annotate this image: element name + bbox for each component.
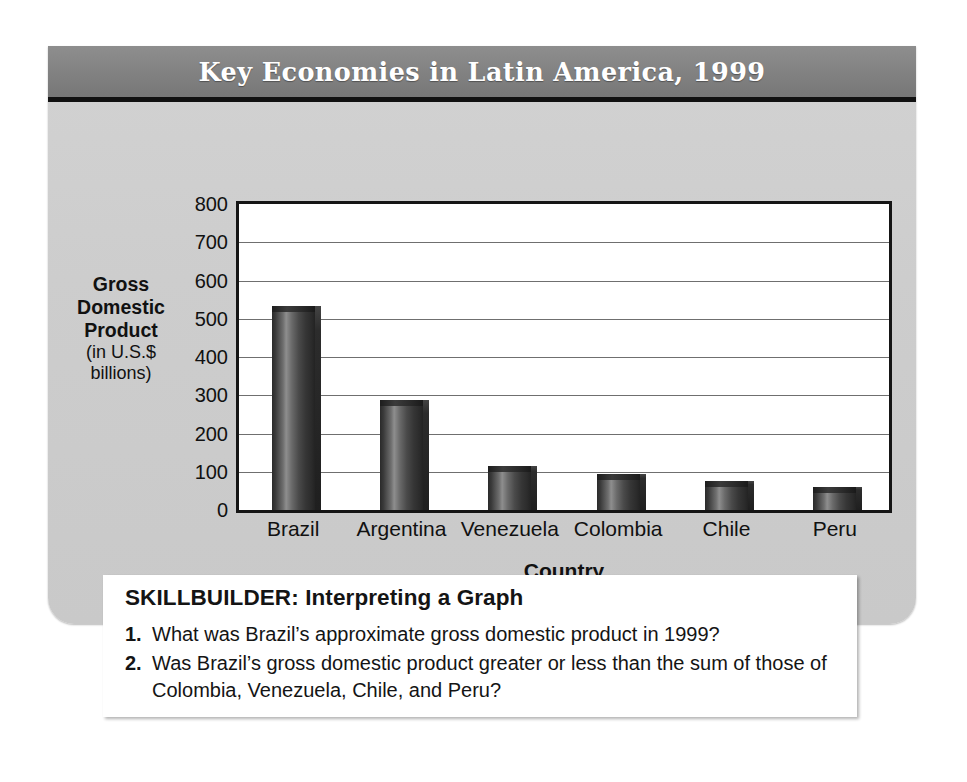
bar-cap [813,487,856,493]
chart-area: Gross Domestic Product (in U.S.$ billion… [48,107,916,607]
bar-cap [272,306,315,312]
bar-side [640,474,646,510]
x-axis-tick-labels: BrazilArgentinaVenezuelaColombiaChilePer… [236,517,892,549]
bar-side [748,481,754,510]
bars-layer [239,204,889,510]
chart-title: Key Economies in Latin America, 1999 [199,57,766,87]
bar-cap [488,466,531,472]
bar-brazil [272,311,315,510]
plot-frame [236,201,892,513]
question-text: Was Brazil’s gross domestic product grea… [152,650,841,704]
bar-venezuela [488,471,531,510]
skillbuilder-questions: 1.What was Brazil’s approximate gross do… [125,621,841,706]
skillbuilder-box: SKILLBUILDER: Interpreting a Graph 1.Wha… [103,575,857,717]
bar-side [531,466,537,510]
y-axis-tick-label: 100 [166,462,228,482]
bar-side [423,400,429,510]
figure-card: Key Economies in Latin America, 1999 Gro… [48,46,916,624]
x-axis-tick-label: Venezuela [456,517,564,541]
bar-cap [705,481,748,487]
skillbuilder-question: 1.What was Brazil’s approximate gross do… [125,621,841,648]
x-axis-tick-label: Colombia [564,517,672,541]
x-axis-tick-label: Brazil [239,517,347,541]
question-text: What was Brazil’s approximate gross dome… [152,621,720,648]
y-axis-tick-label: 700 [166,232,228,252]
bar-side [315,306,321,510]
y-axis-tick-label: 600 [166,271,228,291]
y-axis-tick-label: 0 [166,500,228,520]
x-axis-tick-label: Chile [672,517,780,541]
y-axis-tick-label: 200 [166,424,228,444]
bar-colombia [597,479,640,510]
x-axis-tick-label: Argentina [347,517,455,541]
x-axis-tick-label: Peru [781,517,889,541]
bar-cap [597,474,640,480]
question-number: 2. [125,650,152,677]
skillbuilder-heading: SKILLBUILDER: Interpreting a Graph [125,585,523,611]
bar-side [856,487,862,510]
bar-argentina [380,405,423,510]
bar-cap [380,400,423,406]
chart-title-banner: Key Economies in Latin America, 1999 [48,46,916,102]
y-axis-tick-labels: 0100200300400500600700800 [166,201,228,513]
bar-chile [705,486,748,510]
question-number: 1. [125,621,152,648]
y-axis-tick-label: 800 [166,194,228,214]
y-axis-tick-label: 400 [166,347,228,367]
y-axis-tick-label: 500 [166,309,228,329]
skillbuilder-question: 2.Was Brazil’s gross domestic product gr… [125,650,841,704]
bar-peru [813,492,856,510]
y-axis-tick-label: 300 [166,385,228,405]
